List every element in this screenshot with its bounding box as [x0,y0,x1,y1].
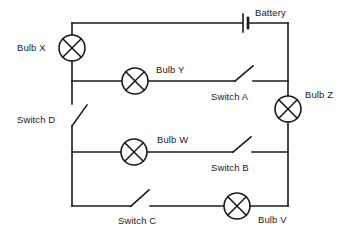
bulb-w-label: Bulb W [157,134,188,145]
bulb-v-symbol [224,193,250,219]
circuit-diagram-canvas: Bulb X Bulb Y Bulb Z Bulb W Bulb V Switc… [0,0,353,242]
switch-b-lever [233,137,251,152]
switch-d-lever [72,105,87,126]
battery-label: Battery [255,7,286,18]
bulb-y-label: Bulb Y [156,64,184,75]
switch-b-label: Switch B [211,162,249,173]
bulb-y-symbol [122,68,148,94]
bulb-z-label: Bulb Z [305,89,333,100]
bulb-x-label: Bulb X [17,42,46,53]
switch-d-label: Switch D [17,114,55,125]
switch-c-label: Switch C [118,215,156,226]
switch-c-lever [131,190,149,206]
bulb-v-label: Bulb V [258,214,287,225]
switch-a-lever [235,66,253,81]
bulb-x-symbol [59,35,85,61]
bulb-z-symbol [275,96,301,122]
bulb-w-symbol [121,139,147,165]
switch-a-label: Switch A [211,91,248,102]
